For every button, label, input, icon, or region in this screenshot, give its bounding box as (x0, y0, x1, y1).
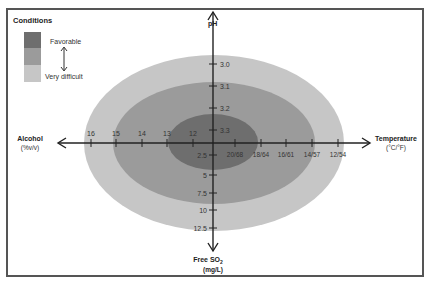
temperature-tick-12-54: 12/54 (330, 151, 347, 158)
temperature-tick-16-61: 16/61 (278, 151, 295, 158)
ph-tick-3-1: 3.1 (220, 83, 230, 90)
legend-title: Conditions (13, 16, 52, 25)
legend-very-difficult-label: Very difficult (45, 73, 83, 81)
so2-tick-12-5: 12.5 (193, 225, 207, 232)
so2-tick-7-5: 7.5 (197, 190, 207, 197)
legend-favorable-label: Favorable (50, 38, 81, 45)
so2-tick-10: 10 (199, 207, 207, 214)
temperature-tick-18-64: 18/64 (253, 151, 270, 158)
so2-label: Free SO2 (193, 256, 223, 265)
alcohol-label: Alcohol (17, 135, 43, 142)
alcohol-tick-12: 12 (189, 130, 197, 137)
ph-tick-3-0: 3.0 (220, 61, 230, 68)
temperature-tick-14-57: 14/57 (304, 151, 321, 158)
alcohol-tick-14: 14 (138, 130, 146, 137)
conditions-diagram: Conditions Favorable Very difficult 3.0 … (0, 0, 431, 286)
so2-tick-2-5: 2.5 (197, 152, 207, 159)
alcohol-tick-16: 16 (87, 130, 95, 137)
temperature-label: Temperature (375, 135, 417, 143)
so2-tick-5: 5 (203, 172, 207, 179)
legend-swatch-intermediate (24, 48, 41, 65)
ph-tick-3-3: 3.3 (220, 127, 230, 134)
legend-swatch-very-difficult (24, 65, 41, 82)
temperature-unit: (°C/°F) (386, 144, 406, 152)
legend-double-arrow-icon (61, 47, 67, 71)
alcohol-tick-15: 15 (112, 130, 120, 137)
so2-unit: (mg/L) (203, 266, 223, 274)
alcohol-tick-13: 13 (163, 130, 171, 137)
alcohol-unit: (%v/v) (21, 144, 39, 152)
ph-tick-3-2: 3.2 (220, 105, 230, 112)
temperature-tick-20-68: 20/68 (227, 151, 244, 158)
legend-swatch-favorable (24, 32, 41, 48)
ph-label: pH (208, 20, 217, 28)
